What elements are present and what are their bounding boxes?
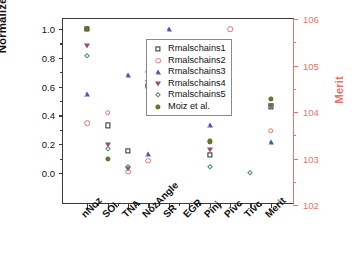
y-right-tick-mark <box>293 66 298 67</box>
data-point <box>207 152 212 157</box>
y-axis-right-title: Merit <box>333 60 345 120</box>
legend-item-rmalschains4[interactable]: Rmalschains4 <box>151 78 226 90</box>
legend-item-rmalschains1[interactable]: Rmalschains1 <box>151 43 226 55</box>
legend-item-rmalschains2[interactable]: Rmalschains2 <box>151 55 226 67</box>
y-left-tick-label: 0.6 <box>29 81 55 92</box>
data-point <box>145 151 151 156</box>
legend-label: Rmalschains2 <box>166 55 226 67</box>
data-point <box>207 147 213 152</box>
data-point <box>146 158 152 164</box>
y-left-tick-label: 1.0 <box>29 24 55 35</box>
chart-legend: Rmalschains1Rmalschains2Rmalschains3Rmal… <box>146 39 232 116</box>
data-point <box>207 122 213 127</box>
y-left-tick-mark <box>59 29 64 30</box>
data-point-merit <box>268 96 273 101</box>
legend-marker-icon <box>151 43 166 54</box>
data-point <box>248 171 252 175</box>
data-point <box>84 43 90 48</box>
y-right-tick-mark <box>293 205 298 206</box>
data-point-merit <box>269 104 273 108</box>
y-right-tick-label: 102 <box>303 200 319 211</box>
legend-item-rmalschains5[interactable]: Rmalschains5 <box>151 89 226 101</box>
legend-label: Rmalschains3 <box>166 66 226 78</box>
y-left-tick-label: 0.0 <box>29 168 55 179</box>
y-right-tick-mark <box>293 159 298 160</box>
y-right-tick-mark <box>293 19 298 20</box>
y-right-tick-label: 105 <box>303 60 319 71</box>
y-left-tick-label: 0.8 <box>29 52 55 63</box>
data-point <box>125 73 131 78</box>
legend-item-rmalschains3[interactable]: Rmalschains3 <box>151 66 226 78</box>
y-left-minor-tick <box>60 72 63 73</box>
legend-label: Rmalschains5 <box>166 89 226 101</box>
data-point <box>105 142 111 147</box>
y-left-tick-label: 0.4 <box>29 110 55 121</box>
data-point <box>126 164 130 168</box>
legend-marker-icon <box>151 55 166 66</box>
data-point <box>227 26 233 32</box>
y-right-minor-tick <box>293 135 296 136</box>
y-right-tick-label: 103 <box>303 153 319 164</box>
data-point <box>125 148 130 153</box>
x-category-label-sr: SR <box>161 202 179 220</box>
data-point-merit <box>268 103 274 108</box>
legend-label: Rmalschains1 <box>166 43 226 55</box>
y-right-minor-tick <box>293 182 296 183</box>
plot-area: 0.00.20.40.60.81.0 102103104105106 Rmals… <box>62 18 294 204</box>
data-point-merit <box>268 104 273 109</box>
data-point <box>84 121 90 127</box>
y-right-minor-tick <box>293 89 296 90</box>
data-point <box>105 156 110 161</box>
data-point-merit <box>268 128 274 134</box>
y-left-tick-mark <box>59 144 64 145</box>
y-left-tick-mark <box>59 87 64 88</box>
legend-marker-icon <box>151 101 166 112</box>
legend-item-moiz-et-al[interactable]: Moiz et al. <box>151 101 226 113</box>
data-point <box>85 54 89 58</box>
data-point <box>125 166 131 171</box>
legend-marker-icon <box>151 78 166 89</box>
y-right-tick-label: 106 <box>303 14 319 25</box>
legend-label: Moiz et al. <box>166 101 210 113</box>
legend-label: Rmalschains4 <box>166 78 226 90</box>
data-point <box>105 123 110 128</box>
data-point <box>105 110 111 116</box>
y-left-minor-tick <box>60 43 63 44</box>
data-point <box>207 164 211 168</box>
data-point <box>85 26 90 31</box>
y-right-minor-tick <box>293 42 296 43</box>
y-left-tick-mark <box>59 173 64 174</box>
data-point <box>166 27 172 32</box>
y-left-minor-tick <box>60 159 63 160</box>
data-point <box>125 169 131 175</box>
y-right-tick-label: 104 <box>303 107 319 118</box>
data-point <box>207 139 212 144</box>
data-point <box>105 146 109 150</box>
y-left-tick-mark <box>59 115 64 116</box>
scatter-chart: Normalized values Merit 0.00.20.40.60.81… <box>0 0 354 278</box>
y-left-minor-tick <box>60 101 63 102</box>
y-axis-left-title: Normalized values <box>0 0 8 62</box>
legend-marker-icon <box>151 66 166 77</box>
x-minor-tick <box>179 203 180 206</box>
data-point <box>85 26 90 31</box>
y-left-minor-tick <box>60 130 63 131</box>
legend-marker-icon <box>151 89 166 100</box>
y-left-tick-label: 0.2 <box>29 139 55 150</box>
y-right-tick-mark <box>293 112 298 113</box>
y-left-tick-mark <box>59 58 64 59</box>
data-point-merit <box>268 140 274 145</box>
data-point <box>84 91 90 96</box>
